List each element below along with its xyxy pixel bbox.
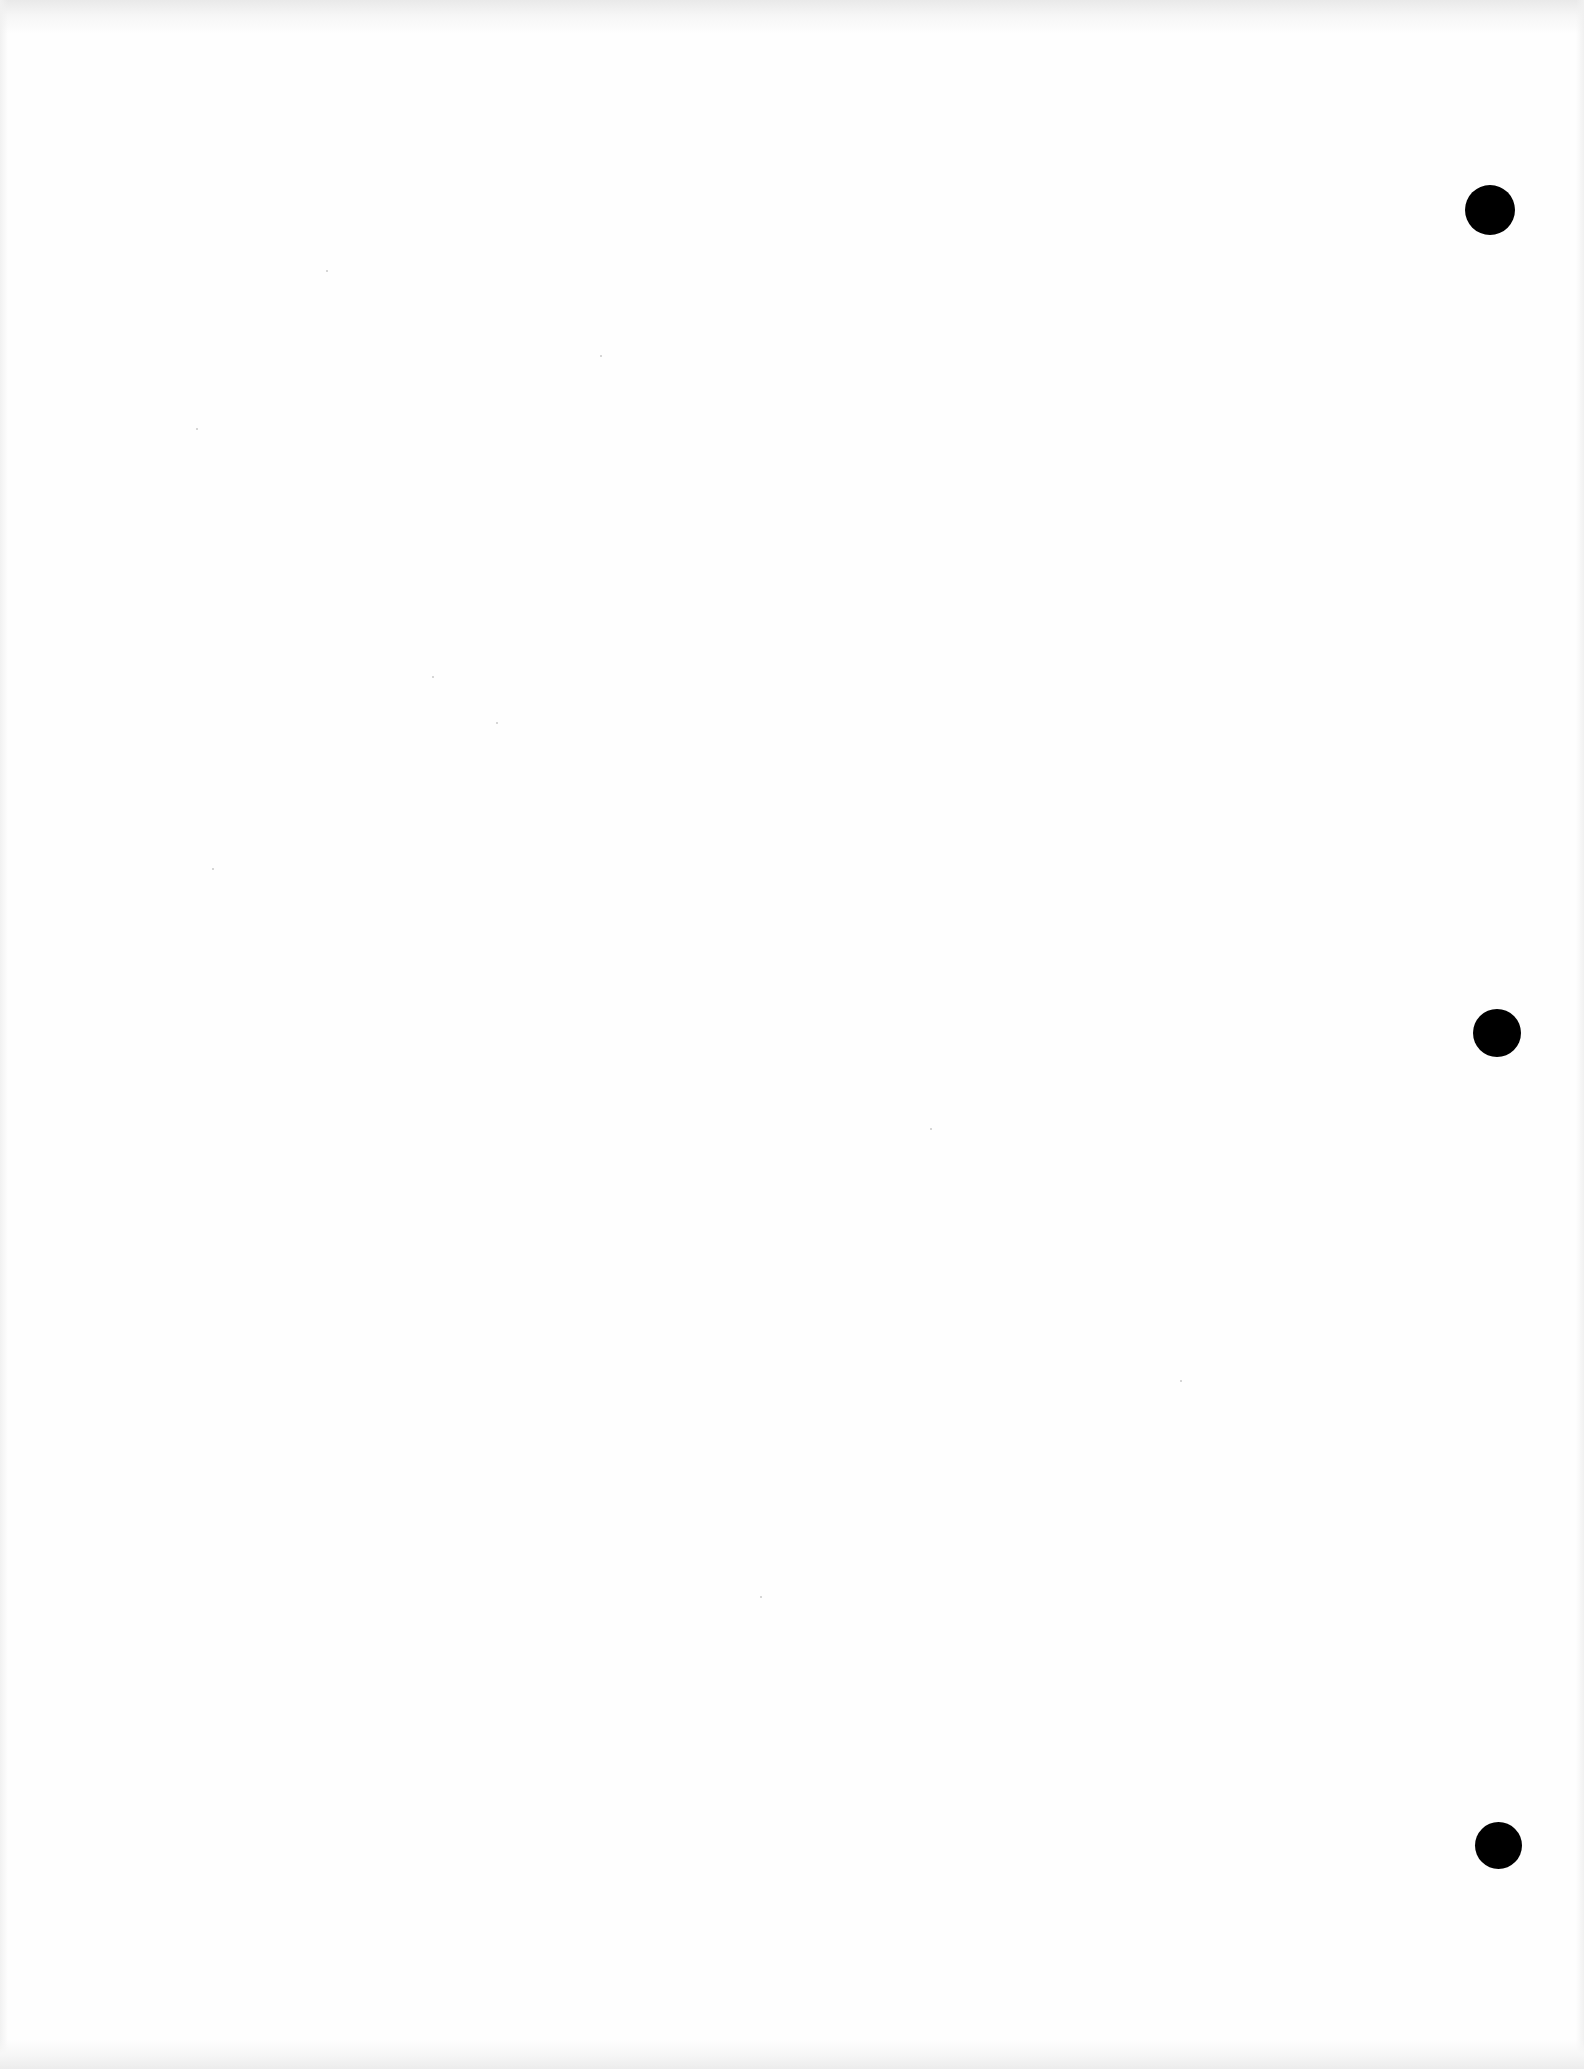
scan-edge-left (0, 0, 8, 2069)
scanned-page (0, 0, 1584, 2069)
scan-speck (600, 355, 602, 357)
scan-edge-right (1576, 0, 1584, 2069)
punch-hole-middle (1473, 1009, 1521, 1057)
punch-hole-top (1465, 185, 1515, 235)
scan-speck (930, 1128, 932, 1130)
scan-edge-bottom (0, 2039, 1584, 2069)
scan-speck (1180, 1380, 1182, 1382)
punch-hole-bottom (1475, 1822, 1522, 1869)
scan-speck (496, 722, 498, 724)
scan-speck (326, 270, 328, 272)
scan-edge-top (0, 0, 1584, 34)
scan-speck (196, 428, 198, 430)
scan-speck (212, 868, 214, 870)
scan-speck (432, 676, 434, 678)
scan-speck (760, 1596, 762, 1598)
